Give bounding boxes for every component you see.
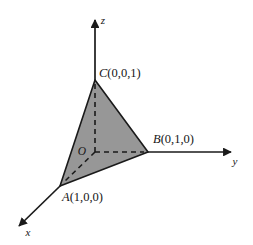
coordinate-figure: x y z O C(0,0,1) B(0,1,0) A(1,0,0) xyxy=(0,0,253,245)
point-label-c: C(0,0,1) xyxy=(99,66,141,80)
point-label-a: A(1,0,0) xyxy=(61,190,103,204)
triangle-abc xyxy=(60,80,148,186)
figure-canvas: x y z O C(0,0,1) B(0,1,0) A(1,0,0) xyxy=(0,0,253,245)
point-b-coords: (0,1,0) xyxy=(161,132,194,146)
x-axis-label: x xyxy=(25,226,31,238)
point-a-coords: (1,0,0) xyxy=(70,190,103,204)
y-axis-label: y xyxy=(232,155,238,167)
origin-label: O xyxy=(78,145,87,157)
point-a-name: A xyxy=(61,190,70,204)
point-label-b: B(0,1,0) xyxy=(153,132,194,146)
z-axis-label: z xyxy=(100,14,106,26)
point-c-coords: (0,0,1) xyxy=(107,66,140,80)
